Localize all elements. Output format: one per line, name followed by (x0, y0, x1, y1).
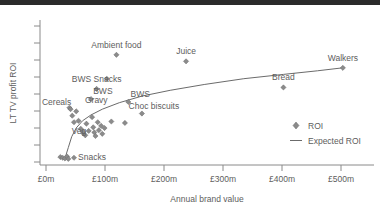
legend-label-expected-roi: Expected ROI (308, 136, 361, 146)
data-point-marker (95, 120, 100, 125)
x-tick-label: £400m (269, 174, 295, 184)
y-axis-title: LT TV profit ROI (8, 63, 18, 124)
point-label: Juice (176, 46, 196, 56)
point-label: Gravy (85, 95, 108, 105)
point-label: Cereals (42, 97, 71, 107)
point-label: Ambient food (91, 40, 141, 50)
x-axis-title: Annual brand value (170, 194, 244, 204)
y-axis-ticks (34, 26, 40, 162)
x-axis-tick-labels: £0m £100m £200m £300m £400m £500m (38, 174, 354, 184)
point-label: BWS (131, 89, 151, 99)
x-tick-label: £300m (210, 174, 236, 184)
point-label: Walkers (328, 53, 358, 63)
x-tick-label: £100m (92, 174, 118, 184)
point-label: Snacks (78, 152, 106, 162)
point-label: Bread (272, 72, 295, 82)
point-label: Veg (72, 126, 87, 136)
chart-legend: ROI Expected ROI (290, 121, 361, 146)
legend-roi-marker-icon (293, 122, 299, 129)
data-point-marker (71, 155, 76, 160)
data-point-marker (114, 52, 119, 57)
data-point-marker (86, 128, 91, 133)
data-point-marker (100, 131, 105, 136)
data-point-marker (91, 125, 96, 130)
data-point-marker (70, 113, 75, 118)
data-point-marker (340, 65, 345, 70)
x-tick-label: £500m (328, 174, 354, 184)
data-point-marker (122, 120, 127, 125)
x-tick-label: £0m (38, 174, 55, 184)
x-axis-ticks (46, 165, 341, 171)
x-tick-label: £200m (151, 174, 177, 184)
data-point-marker (96, 128, 101, 133)
data-points-group (58, 52, 346, 161)
chart-container: LT TV profit ROI £0m £100m £200m £300m £… (0, 0, 380, 209)
point-label: BWS Snacks (72, 74, 122, 84)
data-point-marker (71, 120, 76, 125)
data-point-marker (139, 111, 144, 116)
data-point-marker (183, 59, 188, 64)
data-point-marker (281, 85, 286, 90)
data-point-marker (74, 109, 79, 114)
point-label: Choc biscuits (129, 101, 180, 111)
legend-label-roi: ROI (308, 121, 323, 131)
scatter-chart: LT TV profit ROI £0m £100m £200m £300m £… (0, 0, 380, 209)
data-point-marker (109, 119, 114, 124)
